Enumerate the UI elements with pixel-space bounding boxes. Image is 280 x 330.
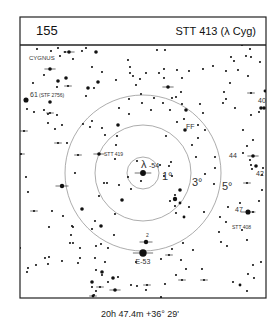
- star-icon: [128, 98, 130, 100]
- star-label: 44: [229, 152, 237, 159]
- star-icon: [118, 107, 120, 109]
- star-icon: [145, 289, 147, 291]
- star-icon: [176, 69, 178, 71]
- star-icon: [239, 202, 241, 204]
- star-icon: [201, 268, 203, 270]
- star-icon: [174, 205, 176, 207]
- star-icon: [101, 71, 103, 73]
- star-icon: [249, 48, 251, 50]
- star-icon: [74, 154, 82, 156]
- star-icon: [47, 113, 49, 115]
- star-icon: [135, 170, 152, 176]
- star-icon: [252, 211, 254, 213]
- star-icon: [232, 281, 234, 283]
- star-icon: [163, 175, 165, 177]
- star-icon: [17, 153, 25, 155]
- star-icon: [107, 281, 109, 283]
- star-icon: [183, 118, 185, 120]
- star-icon: [48, 256, 50, 258]
- star-icon: [180, 259, 182, 261]
- star-icon: [225, 70, 227, 72]
- star-icon: [51, 210, 53, 212]
- star-icon: [162, 85, 173, 89]
- star-icon: [127, 176, 129, 178]
- star-icon: [195, 156, 197, 158]
- star-icon: [175, 274, 177, 276]
- star-icon: [188, 70, 190, 72]
- star-icon: [69, 242, 71, 244]
- star-icon: [94, 50, 98, 54]
- star-icon: [93, 294, 95, 296]
- star-icon: [26, 271, 28, 273]
- star-icon: [258, 200, 260, 202]
- star-icon: [246, 239, 248, 241]
- star-icon: [95, 245, 97, 247]
- star-icon: [171, 97, 173, 99]
- star-icon: [70, 234, 72, 236]
- star-icon: [223, 91, 225, 93]
- star-icon: [247, 273, 249, 275]
- star-icon: [171, 175, 173, 177]
- star-icon: [171, 248, 173, 250]
- star-icon: [100, 270, 104, 274]
- star-icon: [79, 257, 81, 259]
- star-icon: [243, 182, 251, 184]
- star-icon: [95, 269, 97, 271]
- star-icon: [120, 198, 124, 202]
- star-icon: [26, 108, 28, 110]
- star-icon: [54, 142, 62, 144]
- star-icon: [226, 245, 228, 247]
- star-icon: [162, 102, 164, 104]
- chart-number: 155: [36, 23, 58, 38]
- star-icon: [163, 77, 165, 79]
- star-icon: [247, 92, 255, 94]
- star-icon: [56, 114, 58, 116]
- star-icon: [57, 47, 59, 49]
- star-icon: [173, 197, 177, 201]
- star-icon: [103, 182, 105, 184]
- star-icon: [261, 189, 263, 191]
- star-icon: [160, 258, 162, 260]
- circle-label: 5°: [222, 180, 233, 192]
- star-icon: [107, 247, 109, 249]
- star-icon: [56, 79, 60, 83]
- star-icon: [181, 103, 183, 105]
- star-icon: [115, 144, 117, 146]
- star-icon: [204, 173, 206, 175]
- star-label: λ: [141, 158, 147, 170]
- constellation-label: CYGNUS: [29, 55, 55, 61]
- star-icon: [127, 59, 129, 61]
- star-icon: [165, 135, 167, 137]
- star-icon: [259, 61, 261, 63]
- star-icon: [101, 274, 103, 276]
- star-icon: [164, 49, 166, 51]
- star-icon: [185, 268, 187, 270]
- star-icon: [252, 139, 254, 141]
- star-icon: [165, 254, 173, 256]
- star-icon: [30, 210, 38, 212]
- star-icon: [99, 224, 103, 228]
- star-icon: [116, 135, 118, 137]
- star-icon: [178, 279, 186, 281]
- star-icon: [222, 102, 224, 104]
- star-icon: [136, 160, 138, 162]
- star-icon: [164, 283, 166, 285]
- star-icon: [180, 91, 182, 93]
- star-icon: [104, 261, 106, 263]
- star-icon: [232, 302, 241, 305]
- star-icon: [250, 114, 252, 116]
- star-icon: [179, 202, 182, 205]
- star-icon: [129, 72, 131, 74]
- star-icon: [170, 161, 172, 163]
- star-icon: [229, 82, 231, 84]
- star-icon: [98, 195, 100, 197]
- star-icon: [114, 213, 116, 215]
- star-icon: [199, 103, 201, 105]
- star-icon: [82, 123, 84, 125]
- star-icon: [72, 242, 74, 244]
- star-label: FF: [186, 123, 195, 130]
- star-icon: [106, 182, 108, 184]
- star-icon: [116, 123, 120, 127]
- star-icon: [251, 168, 253, 170]
- star-label: 2: [146, 232, 149, 238]
